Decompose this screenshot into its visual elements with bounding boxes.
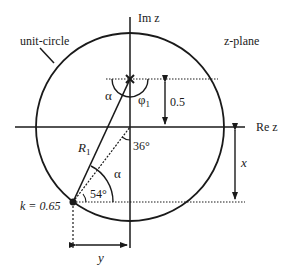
- unit-circle-label: unit-circle: [20, 34, 69, 48]
- plane-label: z-plane: [224, 34, 259, 48]
- height-05-label: 0.5: [170, 95, 185, 109]
- angle-36-label: 36°: [133, 139, 150, 153]
- phi-label: φ1: [138, 92, 150, 109]
- re-axis-label: Re z: [256, 120, 278, 134]
- r1-label: R1: [77, 140, 90, 157]
- k-alpha-label: α: [114, 166, 121, 181]
- k-point: [70, 199, 77, 206]
- unit-circle-leader: [40, 48, 54, 63]
- diagram-canvas: Im z Re z unit-circle z-plane α φ1 0.5 R…: [0, 0, 289, 268]
- origin-36-arc: [122, 137, 130, 140]
- y-dimension-label: y: [96, 250, 104, 265]
- pole-alpha-label: α: [105, 88, 112, 103]
- im-axis-label: Im z: [138, 11, 160, 25]
- x-dimension-label: x: [240, 155, 247, 170]
- angle-54-label: 54°: [90, 187, 107, 201]
- k-label: k = 0.65: [20, 199, 60, 213]
- k-54-arc: [83, 194, 86, 202]
- pole-alpha-arc: [112, 79, 122, 95]
